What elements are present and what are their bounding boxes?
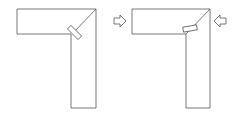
joint-outline [132, 9, 210, 108]
clamped-joint-figure [132, 9, 210, 108]
mitre-line [74, 9, 96, 32]
arrow-right-icon [114, 15, 126, 27]
biscuit-spline [183, 25, 198, 32]
unclamped-joint-figure [17, 9, 96, 108]
arrow-left-icon [214, 15, 226, 27]
biscuit-spline [67, 25, 81, 39]
mitre-joint-diagram [0, 0, 242, 120]
joint-outline [17, 9, 96, 108]
